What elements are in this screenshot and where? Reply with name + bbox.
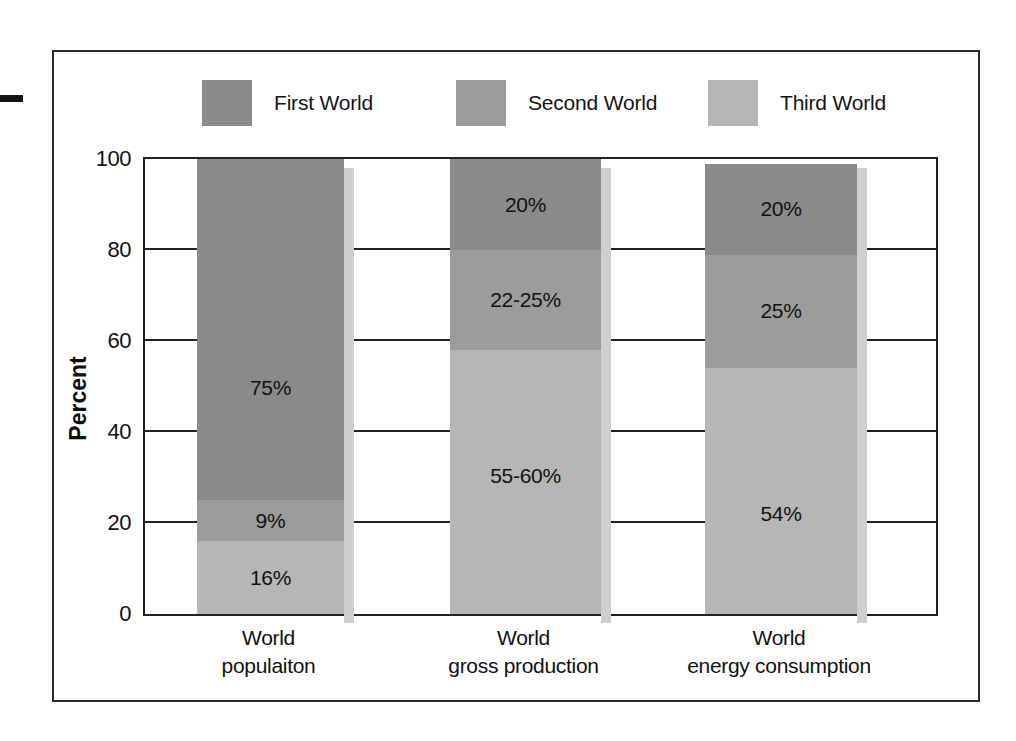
bar-segment-label: 75% (250, 376, 291, 400)
x-axis-label-line-1: World (643, 624, 915, 652)
y-tick-label-0: 0 (119, 601, 131, 627)
bar-shadow-3 (857, 168, 867, 623)
x-axis-label-1: Worldpopulaiton (135, 624, 402, 680)
x-axis-label-line-1: World (388, 624, 659, 652)
legend-swatch-second-world (456, 80, 506, 126)
bar-segment-second-world[interactable]: 9% (197, 500, 344, 541)
bar-segment-label: 9% (256, 509, 286, 533)
plot-area: 16%9%75%55-60%22-25%20%54%25%20% (143, 157, 938, 616)
legend-item-first-world[interactable]: First World (202, 80, 373, 126)
bar-3[interactable]: 54%25%20% (705, 159, 857, 614)
x-axis-label-line-2: gross production (388, 652, 659, 680)
bar-segment-label: 54% (760, 502, 801, 526)
y-tick-label-20: 20 (108, 510, 131, 536)
bar-1[interactable]: 16%9%75% (197, 159, 344, 614)
y-tick-label-80: 80 (108, 237, 131, 263)
x-axis-label-line-1: World (135, 624, 402, 652)
bar-segment-first-world[interactable]: 20% (705, 164, 857, 255)
x-axis-labels: WorldpopulaitonWorldgross productionWorl… (143, 624, 938, 694)
bar-2[interactable]: 55-60%22-25%20% (450, 159, 601, 614)
legend-label-third-world: Third World (780, 91, 886, 115)
bar-segment-label: 20% (505, 193, 546, 217)
bar-segment-first-world[interactable]: 75% (197, 159, 344, 500)
bar-segment-third-world[interactable]: 54% (705, 368, 857, 614)
y-tick-label-40: 40 (108, 419, 131, 445)
bar-segment-third-world[interactable]: 55-60% (450, 350, 601, 614)
bar-segment-second-world[interactable]: 25% (705, 255, 857, 369)
legend-swatch-third-world (708, 80, 758, 126)
page-edge-mark (0, 95, 23, 102)
x-axis-label-line-2: populaiton (135, 652, 402, 680)
y-tick-label-60: 60 (108, 328, 131, 354)
x-axis-label-line-2: energy consumption (643, 652, 915, 680)
legend-swatch-first-world (202, 80, 252, 126)
legend-item-third-world[interactable]: Third World (708, 80, 886, 126)
chart-legend: First World Second World Third World (52, 72, 980, 134)
bar-shadow-1 (344, 168, 354, 623)
bar-shadow-2 (601, 168, 611, 623)
x-axis-label-2: Worldgross production (388, 624, 659, 680)
bar-segment-label: 25% (760, 299, 801, 323)
bar-segment-first-world[interactable]: 20% (450, 159, 601, 250)
legend-item-second-world[interactable]: Second World (456, 80, 657, 126)
legend-label-first-world: First World (274, 91, 373, 115)
x-axis-label-3: Worldenergy consumption (643, 624, 915, 680)
y-axis-title: Percent (65, 299, 92, 499)
y-tick-label-100: 100 (96, 146, 131, 172)
bar-segment-label: 22-25% (490, 288, 561, 312)
legend-label-second-world: Second World (528, 91, 657, 115)
bar-segment-second-world[interactable]: 22-25% (450, 250, 601, 350)
bar-segment-label: 16% (250, 566, 291, 590)
bar-segment-third-world[interactable]: 16% (197, 541, 344, 614)
bar-segment-label: 20% (760, 197, 801, 221)
bar-segment-label: 55-60% (490, 464, 561, 488)
